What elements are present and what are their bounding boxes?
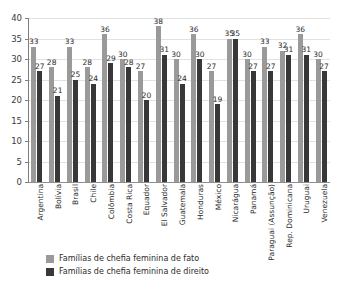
x-axis-label-cell: México bbox=[206, 184, 224, 248]
bar-group: 3325 bbox=[64, 18, 82, 182]
bar: 30 bbox=[120, 59, 125, 182]
y-axis-tick bbox=[25, 162, 29, 163]
legend-item-label: Famílias de chefia feminina de direito bbox=[59, 268, 209, 276]
bar-value-label: 33 bbox=[29, 38, 39, 46]
bar-value-label: 36 bbox=[100, 26, 110, 34]
y-axis-tick-label: 10 bbox=[0, 136, 22, 146]
y-axis-tick-label: 20 bbox=[0, 95, 22, 105]
x-axis-tick-label: Costa Rica bbox=[126, 184, 134, 224]
bar-value-label: 30 bbox=[195, 51, 205, 59]
bar: 27 bbox=[268, 71, 273, 182]
bar-group: 2821 bbox=[46, 18, 64, 182]
bar: 31 bbox=[304, 55, 309, 182]
bar: 32 bbox=[280, 51, 285, 182]
x-axis-tick-label: El Salvador bbox=[161, 184, 169, 226]
x-axis-tick-label: Nicarágua bbox=[232, 184, 240, 222]
bar: 20 bbox=[144, 100, 149, 182]
bar: 25 bbox=[73, 80, 78, 183]
x-axis-label-cell: Colômbia bbox=[99, 184, 117, 248]
bar-value-label: 21 bbox=[53, 87, 63, 95]
x-axis-label-cell: Honduras bbox=[188, 184, 206, 248]
bar: 19 bbox=[215, 104, 220, 182]
bar-value-label: 27 bbox=[266, 63, 276, 71]
legend-item-label: Famílias de chefia feminina de fato bbox=[59, 255, 199, 263]
bar-group: 3629 bbox=[99, 18, 117, 182]
x-axis-label-cell: Chile bbox=[81, 184, 99, 248]
bar: 31 bbox=[162, 55, 167, 182]
bar-value-label: 36 bbox=[296, 26, 306, 34]
bar-group: 3027 bbox=[312, 18, 330, 182]
x-axis-label-cell: Costa Rica bbox=[117, 184, 135, 248]
bar-groups: 3327282133252824362930282720383130243630… bbox=[28, 18, 330, 182]
bar: 33 bbox=[67, 47, 72, 182]
bar-group: 2720 bbox=[135, 18, 153, 182]
bar-value-label: 25 bbox=[71, 71, 81, 79]
bar: 29 bbox=[108, 63, 113, 182]
x-axis-tick-label: Brasil bbox=[72, 184, 80, 205]
y-axis-tick bbox=[25, 39, 29, 40]
x-axis-tick-label: Paraguai (Assunção) bbox=[268, 184, 276, 261]
bar-group: 3027 bbox=[241, 18, 259, 182]
bar-value-label: 29 bbox=[106, 55, 116, 63]
bar: 28 bbox=[126, 67, 131, 182]
bar-chart: 0510152025303540 33272821332528243629302… bbox=[0, 0, 337, 291]
y-axis-labels: 0510152025303540 bbox=[0, 18, 24, 182]
chart-legend: Famílias de chefia feminina de fatoFamíl… bbox=[46, 252, 209, 278]
bar-value-label: 38 bbox=[153, 18, 163, 26]
bar-value-label: 30 bbox=[242, 51, 252, 59]
bar-value-label: 27 bbox=[319, 63, 329, 71]
x-axis-tick-label: Rep. Dominicana bbox=[286, 184, 294, 248]
bar-value-label: 31 bbox=[159, 46, 169, 54]
x-axis-label-cell: Bolívia bbox=[46, 184, 64, 248]
legend-swatch-icon bbox=[46, 268, 54, 276]
x-axis-tick-label: Guatemala bbox=[179, 184, 187, 225]
legend-item[interactable]: Famílias de chefia feminina de direito bbox=[46, 265, 209, 278]
y-axis-tick-label: 0 bbox=[0, 177, 22, 187]
x-axis-label-cell: Guatemala bbox=[170, 184, 188, 248]
y-axis-tick-label: 30 bbox=[0, 54, 22, 64]
bar: 28 bbox=[85, 67, 90, 182]
bar-value-label: 33 bbox=[260, 38, 270, 46]
bar-value-label: 24 bbox=[88, 75, 98, 83]
y-axis-tick bbox=[25, 141, 29, 142]
bar: 24 bbox=[91, 84, 96, 182]
bar-value-label: 27 bbox=[136, 63, 146, 71]
bar-value-label: 30 bbox=[313, 51, 323, 59]
y-axis-tick bbox=[25, 121, 29, 122]
bar: 35 bbox=[233, 39, 238, 183]
x-axis-label-cell: Rep. Dominicana bbox=[277, 184, 295, 248]
bar: 36 bbox=[298, 34, 303, 182]
bar-group: 2719 bbox=[206, 18, 224, 182]
x-axis-tick-label: Chile bbox=[90, 184, 98, 203]
x-axis-tick-label: Uruguai bbox=[303, 184, 311, 214]
bar-value-label: 28 bbox=[47, 59, 57, 67]
y-axis-tick bbox=[25, 18, 29, 19]
axis-baseline bbox=[28, 182, 330, 183]
bar-group: 3231 bbox=[277, 18, 295, 182]
bar-value-label: 19 bbox=[213, 96, 223, 104]
legend-item[interactable]: Famílias de chefia feminina de fato bbox=[46, 252, 209, 265]
x-axis-label-cell: Brasil bbox=[64, 184, 82, 248]
legend-swatch-icon bbox=[46, 255, 54, 263]
bar: 27 bbox=[322, 71, 327, 182]
bar-value-label: 28 bbox=[82, 59, 92, 67]
bar-value-label: 27 bbox=[248, 63, 258, 71]
bar-value-label: 36 bbox=[189, 26, 199, 34]
bar: 28 bbox=[49, 67, 54, 182]
bar: 24 bbox=[180, 84, 185, 182]
bar-value-label: 28 bbox=[124, 59, 134, 67]
bar: 35 bbox=[227, 39, 232, 183]
x-axis-label-cell: Panamá bbox=[241, 184, 259, 248]
bar-value-label: 20 bbox=[142, 92, 152, 100]
plot-area: 3327282133252824362930282720383130243630… bbox=[28, 18, 330, 182]
bar: 27 bbox=[251, 71, 256, 182]
bar-group: 3630 bbox=[188, 18, 206, 182]
bar-group: 3831 bbox=[152, 18, 170, 182]
bar: 27 bbox=[37, 71, 42, 182]
y-axis-tick bbox=[25, 182, 29, 183]
bar-group: 3631 bbox=[294, 18, 312, 182]
bar: 27 bbox=[138, 71, 143, 182]
bar-value-label: 24 bbox=[177, 75, 187, 83]
x-axis-tick-label: Panamá bbox=[250, 184, 258, 214]
x-axis-tick-label: Equador bbox=[143, 184, 151, 215]
